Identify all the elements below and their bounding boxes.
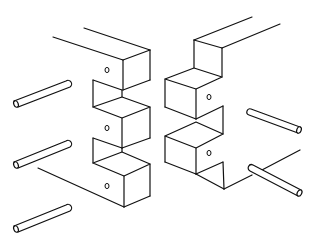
dowel-hole	[105, 67, 109, 72]
dowel-pin	[247, 109, 302, 134]
dowel-pin	[13, 204, 72, 232]
right-finger-board	[165, 17, 300, 189]
dowel-pin	[13, 80, 72, 107]
left-board-back-edge	[84, 28, 150, 50]
dowel-pin	[13, 140, 72, 168]
right-board-bottom-edge	[224, 175, 252, 189]
right-board-top-edge	[194, 17, 252, 40]
left-board-top-edge	[53, 37, 123, 60]
left-board-bottom-edge	[38, 168, 124, 207]
right-finger-1-top-face	[165, 68, 222, 89]
finger-2-top-face	[93, 97, 150, 118]
right-board-back-edge	[222, 24, 280, 48]
left-finger-board	[38, 28, 150, 207]
dowel-hole	[105, 125, 109, 130]
dowel-pin	[248, 165, 303, 197]
joint-diagram	[0, 0, 319, 247]
dowel-hole	[207, 150, 211, 155]
right-finger-2-top-face	[165, 122, 223, 148]
dowel-hole	[105, 183, 109, 188]
finger-3-top-face	[93, 152, 150, 176]
dowel-hole	[207, 94, 211, 99]
